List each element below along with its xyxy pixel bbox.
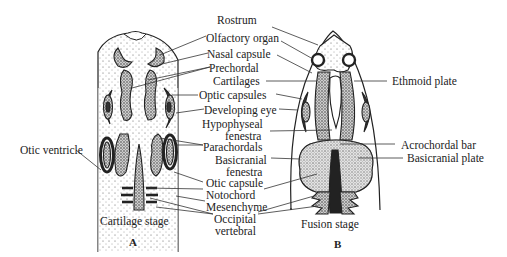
label-mesenchyme: Mesenchyme (206, 201, 267, 213)
panel-b-drawing (291, 31, 380, 214)
label-prechordal: Prechordal (209, 62, 259, 74)
label-rostrum: Rostrum (217, 14, 257, 26)
label-ethmoid-plate: Ethmoid plate (392, 75, 457, 87)
label-basicranial-plate: Basicranial plate (407, 152, 484, 164)
label-prechordal-cartilages: Cartilages (213, 75, 260, 87)
panel-letter-b: B (334, 238, 341, 250)
label-otic-capsule: Otic capsule (206, 177, 263, 189)
label-basicranial: Basicranial (215, 154, 267, 166)
label-optic-capsules: Optic capsules (199, 89, 266, 101)
label-hypophyseal: Hypophyseal (202, 118, 263, 130)
label-otic-ventricle: Otic ventricle (20, 144, 83, 156)
label-parachordals: Parachordals (203, 141, 262, 153)
label-acrochordal-bar: Acrochordal bar (401, 139, 476, 151)
label-olfactory-organ: Olfactory organ (206, 32, 279, 44)
chondrocranium-figure: Rostrum Olfactory organ Nasal capsule Pr… (0, 0, 507, 257)
label-occipital-vertebral: vertebral (215, 225, 256, 237)
label-notochord: Notochord (206, 189, 255, 201)
label-occipital: Occipital (214, 213, 256, 225)
label-nasal-capsule: Nasal capsule (207, 48, 271, 60)
label-developing-eye: Developing eye (204, 104, 277, 116)
caption-panel-a: Cartilage stage (100, 215, 169, 227)
panel-letter-a: A (129, 236, 137, 248)
caption-panel-b: Fusion stage (301, 218, 359, 230)
